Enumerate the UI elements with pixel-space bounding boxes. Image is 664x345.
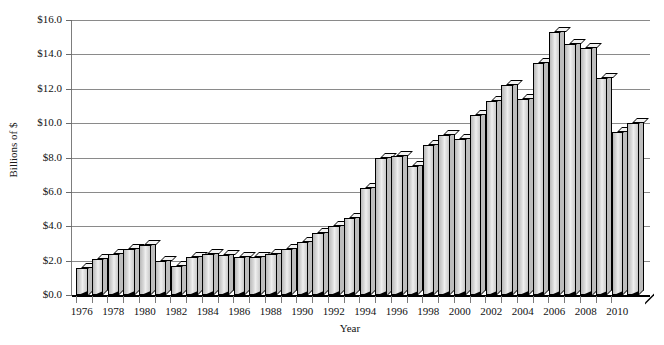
y-axis-tick-label: $14.0	[0, 47, 62, 59]
bar[interactable]	[407, 166, 419, 295]
bar[interactable]	[139, 245, 151, 295]
bar[interactable]	[438, 135, 450, 295]
bar[interactable]	[281, 249, 293, 295]
x-axis-tick-mark	[517, 296, 518, 303]
bar[interactable]	[360, 188, 372, 295]
x-axis-tick-mark	[233, 296, 234, 303]
x-axis-tick-mark	[155, 296, 156, 303]
plot-area	[72, 20, 650, 295]
bar-front-face	[312, 233, 324, 295]
bar[interactable]	[517, 99, 529, 295]
bar-front-face	[627, 123, 639, 295]
bar-front-face	[265, 254, 277, 295]
bar[interactable]	[171, 266, 183, 295]
x-axis-tick-mark	[92, 296, 93, 303]
x-axis-tick-mark	[139, 296, 140, 303]
bar-front-face	[249, 257, 261, 295]
x-axis-tick-mark	[548, 296, 549, 303]
bar[interactable]	[202, 254, 214, 295]
bar-series	[72, 20, 650, 295]
bar[interactable]	[391, 156, 403, 295]
bar-front-face	[407, 166, 419, 295]
bar-front-face	[533, 63, 545, 295]
bar[interactable]	[533, 63, 545, 295]
bar[interactable]	[612, 132, 624, 295]
y-axis-tick-label: $12.0	[0, 82, 62, 94]
bar-front-face	[108, 254, 120, 295]
x-axis-tick-mark	[454, 296, 455, 303]
bar[interactable]	[328, 226, 340, 295]
bar[interactable]	[108, 254, 120, 295]
bar[interactable]	[454, 139, 466, 295]
bar-front-face	[580, 48, 592, 296]
x-axis-tick-mark	[485, 296, 486, 303]
bar-front-face	[438, 135, 450, 295]
x-axis-tick-mark	[359, 296, 360, 303]
bar-front-face	[328, 226, 340, 295]
bar-front-face	[202, 254, 214, 295]
x-axis-tick-mark	[218, 296, 219, 303]
bar[interactable]	[470, 115, 482, 295]
x-axis-tick-label: 2010	[597, 305, 637, 317]
bar-front-face	[486, 101, 498, 295]
bar[interactable]	[375, 158, 387, 296]
bar[interactable]	[76, 268, 88, 296]
bar-front-face	[564, 44, 576, 295]
x-axis-tick-mark	[564, 296, 565, 303]
bar-front-face	[76, 268, 88, 296]
bar-front-face	[281, 249, 293, 295]
bar[interactable]	[627, 123, 639, 295]
bar[interactable]	[92, 259, 104, 295]
x-axis-tick-mark	[391, 296, 392, 303]
bar[interactable]	[265, 254, 277, 295]
bar-front-face	[360, 188, 372, 295]
bar[interactable]	[249, 257, 261, 295]
x-axis-tick-mark	[611, 296, 612, 303]
bar-front-face	[391, 156, 403, 295]
x-axis-tick-mark	[107, 296, 108, 303]
y-axis-tick-label: $16.0	[0, 13, 62, 25]
bar[interactable]	[564, 44, 576, 295]
bar[interactable]	[501, 85, 513, 295]
bar-front-face	[501, 85, 513, 295]
y-axis-tick-label: $0.0	[0, 288, 62, 300]
bar[interactable]	[312, 233, 324, 295]
bar[interactable]	[486, 101, 498, 295]
x-axis-tick-mark	[186, 296, 187, 303]
x-axis-tick-mark	[312, 296, 313, 303]
bar[interactable]	[297, 242, 309, 295]
bar[interactable]	[549, 32, 561, 295]
bar-front-face	[155, 261, 167, 295]
x-axis-tick-mark	[422, 296, 423, 303]
bar[interactable]	[155, 261, 167, 295]
x-axis-tick-mark	[438, 296, 439, 303]
x-axis-tick-mark	[265, 296, 266, 303]
bar-front-face	[344, 218, 356, 295]
x-axis-tick-mark	[375, 296, 376, 303]
x-axis-title-text: Year	[340, 322, 360, 334]
x-axis-tick-mark	[596, 296, 597, 303]
bar[interactable]	[596, 78, 608, 295]
bar[interactable]	[218, 255, 230, 295]
x-axis-tick-mark	[76, 296, 77, 303]
bar-front-face	[171, 266, 183, 295]
bar-front-face	[218, 255, 230, 295]
y-axis-tick-label: $4.0	[0, 219, 62, 231]
y-axis-tick-label: $10.0	[0, 116, 62, 128]
bar[interactable]	[423, 145, 435, 295]
bar-front-face	[234, 257, 246, 295]
bar-front-face	[123, 249, 135, 295]
bar[interactable]	[123, 249, 135, 295]
y-axis-tick-label: $8.0	[0, 151, 62, 163]
bar-front-face	[596, 78, 608, 295]
bar[interactable]	[344, 218, 356, 295]
x-axis-tick-mark	[501, 296, 502, 303]
bar[interactable]	[234, 257, 246, 295]
bar[interactable]	[186, 257, 198, 295]
bar-front-face	[375, 158, 387, 296]
bar[interactable]	[580, 48, 592, 296]
x-axis-tick-mark	[202, 296, 203, 303]
x-axis-tick-mark	[470, 296, 471, 303]
bar-front-face	[454, 139, 466, 295]
bar-front-face	[92, 259, 104, 295]
